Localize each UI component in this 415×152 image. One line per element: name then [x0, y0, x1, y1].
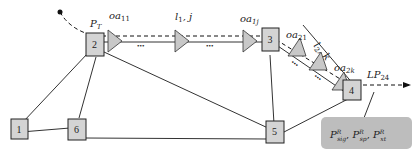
- node-2-label: 2: [92, 39, 97, 50]
- node-4[interactable]: 4: [343, 80, 361, 100]
- ellipsis-2: •••: [206, 42, 214, 50]
- lp24-label: LP24: [366, 69, 390, 82]
- pt-label: PT: [89, 18, 103, 31]
- link-1-2: [23, 53, 88, 122]
- node-1-label: 1: [17, 124, 22, 135]
- node-6[interactable]: 6: [68, 119, 86, 140]
- amplifier-oa1j-icon: [243, 30, 257, 52]
- node-3[interactable]: 3: [262, 28, 279, 51]
- received-power-box: PRsig, PRsp, PRxt: [321, 117, 412, 149]
- amplifier-oa11-icon: [108, 30, 122, 52]
- node-5[interactable]: 5: [266, 121, 284, 143]
- node-6-label: 6: [74, 124, 79, 135]
- node-4-label: 4: [349, 85, 354, 96]
- amplifier-l1j-icon: [175, 30, 189, 52]
- oa21-label: oa21: [286, 29, 307, 42]
- l1j-label: l1, j: [175, 11, 192, 24]
- node-5-label: 5: [272, 126, 277, 137]
- link-2-6: [79, 57, 96, 118]
- link-6-5: [85, 138, 268, 139]
- oa11-label: oa11: [109, 10, 130, 23]
- lightpath-source-dot: [58, 10, 63, 15]
- node-1[interactable]: 1: [11, 119, 28, 139]
- ellipsis-4: •••: [312, 72, 323, 83]
- link-2-5: [104, 52, 268, 128]
- node-3-label: 3: [268, 34, 273, 45]
- lightpath-3-4: [270, 36, 350, 85]
- oa1j-label: oa1j: [240, 13, 259, 26]
- ellipsis-1: •••: [137, 42, 145, 50]
- network-diagram: ••• ••• ••• ••• 1 2 3 4 5 6 PT oa11 l1, …: [0, 0, 415, 152]
- node-2[interactable]: 2: [86, 33, 104, 56]
- amplifiers: [108, 30, 350, 90]
- link-3-5: [270, 55, 274, 124]
